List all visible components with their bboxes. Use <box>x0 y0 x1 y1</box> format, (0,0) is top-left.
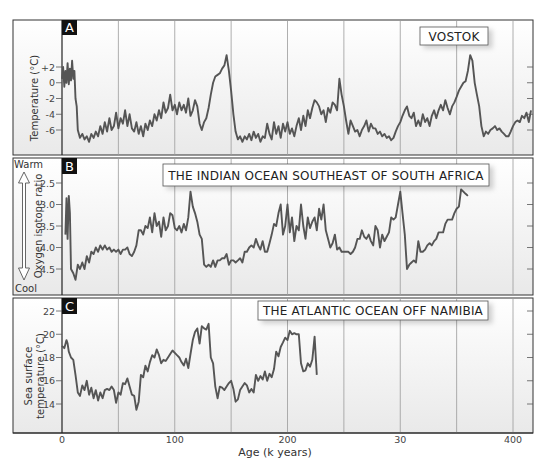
warm-label: Warm <box>14 159 43 170</box>
y-tick-label: -2 <box>46 93 55 104</box>
paleoclimate-figure: A +20-2-4-6 Temperature (°C) VOSTOK B 2.… <box>0 0 552 473</box>
panel-b-y-axis-title: Oxygen isotope ratio <box>33 174 44 279</box>
x-tick-label: 30 <box>394 434 406 445</box>
x-tick-label: 0 <box>59 434 65 445</box>
panel-b-title: THE INDIAN OCEAN SOUTHEAST OF SOUTH AFRI… <box>167 169 484 183</box>
cool-label: Cool <box>15 283 37 294</box>
panel-a-letter: A <box>65 20 74 35</box>
x-axis-title: Age (k years) <box>238 446 312 459</box>
panel-b-letter: B <box>65 159 74 174</box>
panel-c-letter: C <box>65 299 74 314</box>
panel-c-y-axis-title-line2: temperature (°C) <box>35 333 46 419</box>
x-tick-label: 400 <box>504 434 522 445</box>
panel-c-y-axis-title-line1: Sea surface <box>23 347 34 406</box>
x-axis-ticks: 010020030400 <box>59 434 522 445</box>
panel-c-title: THE ATLANTIC OCEAN OFF NAMIBIA <box>262 304 484 318</box>
panel-a-y-axis-title: Temperature (°C) <box>29 55 40 142</box>
panel-a-vostok: A +20-2-4-6 Temperature (°C) VOSTOK <box>13 20 533 155</box>
x-tick-label: 100 <box>166 434 184 445</box>
y-tick-label: -4 <box>46 109 55 120</box>
panel-c-atlantic-ocean: C 2220181614 Sea surface temperature (°C… <box>13 298 533 433</box>
panel-b-indian-ocean: B 2.53.03.54.04.5 Oxygen isotope ratio W… <box>13 158 533 295</box>
y-tick-label: -6 <box>46 125 55 136</box>
y-tick-label: 22 <box>43 306 55 317</box>
y-tick-label: +2 <box>41 62 55 73</box>
y-tick-label: 0 <box>49 77 55 88</box>
x-tick-label: 200 <box>278 434 296 445</box>
panel-a-title: VOSTOK <box>429 30 481 44</box>
